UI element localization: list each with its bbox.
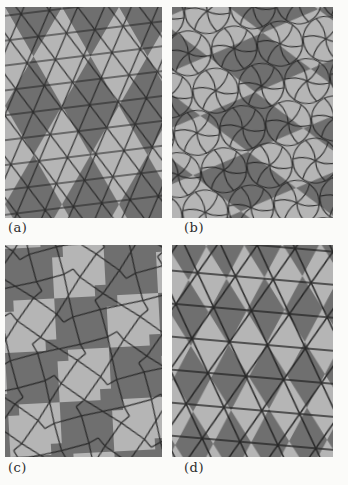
- panel-b-image: [172, 7, 333, 218]
- figure-page: (a) (b) (c) (d): [0, 0, 348, 485]
- panel-a-image: [5, 7, 162, 218]
- panel-c-image: [5, 245, 162, 457]
- panel-c-tiling-graphic: [5, 245, 162, 457]
- panel-b-label: (b): [184, 220, 204, 236]
- panel-b-tiling-graphic: [172, 7, 333, 218]
- panel-d-image: [172, 245, 333, 457]
- panel-a-label: (a): [8, 220, 27, 236]
- panel-d-label: (d): [184, 460, 204, 476]
- panel-d-tiling-graphic: [172, 245, 333, 457]
- panel-c-label: (c): [8, 460, 27, 476]
- panel-a-tiling-graphic: [5, 7, 162, 218]
